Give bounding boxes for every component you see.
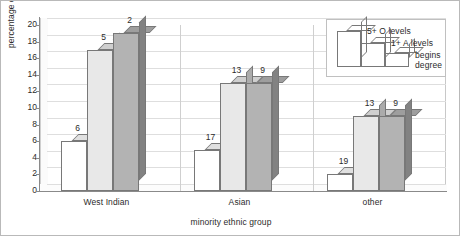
legend-swatch-1-a-levels: [361, 43, 385, 67]
gridline-riser: [39, 167, 47, 175]
bar-front-face: [353, 116, 379, 191]
bar-value-label: 6: [63, 123, 93, 133]
y-axis-tick-label: 2: [3, 168, 37, 178]
bar-front-face: [87, 50, 113, 191]
y-axis-tick-mark: [36, 75, 40, 76]
category-divider: [313, 25, 314, 191]
y-axis-tick-mark: [36, 58, 40, 59]
bar: [113, 33, 139, 191]
legend-swatch-begins-degree: [385, 53, 409, 67]
legend-label-5-o-levels: 5+ O levels: [367, 27, 411, 37]
y-axis-title: percentage of group: [3, 0, 19, 97]
bar-value-label: 2: [115, 15, 145, 25]
y-axis-tick-mark: [36, 25, 40, 26]
legend-label-1-a-levels: 1+ A levels: [391, 39, 433, 49]
gridline-riser: [39, 118, 47, 126]
x-axis-category-label: other: [313, 197, 433, 207]
gridline-riser: [39, 134, 47, 142]
bar-front-face: [379, 116, 405, 191]
bar-value-label: 19: [329, 156, 359, 166]
bar-front-face: [113, 33, 139, 191]
x-axis-title: minority ethnic group: [1, 217, 460, 227]
bar-front-face: [246, 83, 272, 191]
x-axis-line: [39, 191, 447, 192]
y-axis-tick-label: 6: [3, 135, 37, 145]
y-axis-tick-mark: [36, 125, 40, 126]
bar-value-label: 17: [196, 132, 226, 142]
bar-side-face: [405, 99, 412, 181]
legend-label-begins-degree: begins degree: [415, 51, 442, 70]
y-axis-tick-mark: [36, 42, 40, 43]
bar-chart-figure: 02468101214161820 6521713919139 West Ind…: [0, 0, 460, 236]
y-axis-tick-label: 8: [3, 119, 37, 129]
y-axis-tick-label: 10: [3, 102, 37, 112]
bar-side-face: [272, 66, 279, 181]
y-axis-tick-mark: [36, 91, 40, 92]
y-axis-tick-mark: [36, 108, 40, 109]
bar-front-face: [327, 174, 353, 191]
bar: [61, 141, 87, 191]
y-axis-tick-label: 4: [3, 152, 37, 162]
bar: [327, 174, 353, 191]
y-axis-tick-mark: [36, 141, 40, 142]
bar: [87, 50, 113, 191]
x-axis-category-label: Asian: [180, 197, 300, 207]
gridline-riser: [39, 18, 47, 26]
bar: [246, 83, 272, 191]
bar-value-label: 9: [381, 98, 411, 108]
gridline-riser: [39, 51, 47, 59]
gridline-riser: [39, 151, 47, 159]
gridline-riser: [39, 101, 47, 109]
bar-side-face: [139, 16, 146, 181]
bar-front-face: [194, 150, 220, 192]
bar-front-face: [61, 141, 87, 191]
y-axis-tick-mark: [36, 158, 40, 159]
gridline-riser: [39, 68, 47, 76]
category-divider: [180, 25, 181, 191]
gridline-riser: [39, 84, 47, 92]
legend-swatch-5-o-levels: [337, 31, 361, 67]
bar: [194, 150, 220, 192]
gridline-riser: [39, 35, 47, 43]
chart-legend: 5+ O levels 1+ A levels begins degree: [326, 19, 446, 77]
y-axis-tick-mark: [36, 191, 40, 192]
bar-value-label: 9: [248, 65, 278, 75]
y-axis-line: [39, 17, 40, 192]
bar: [379, 116, 405, 191]
x-axis-category-label: West Indian: [47, 197, 167, 207]
bar: [353, 116, 379, 191]
y-axis-tick-label: 0: [3, 185, 37, 195]
y-axis-tick-mark: [36, 174, 40, 175]
bar-value-label: 5: [89, 32, 119, 42]
